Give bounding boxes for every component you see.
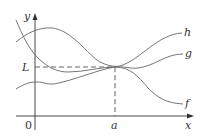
h-label: h bbox=[184, 26, 191, 39]
f-label: f bbox=[184, 97, 191, 110]
y-axis-arrow-icon bbox=[33, 13, 38, 20]
a-label: a bbox=[111, 119, 118, 132]
squeeze-diagram: y x 0 L a h g f bbox=[0, 0, 206, 138]
x-axis-label: x bbox=[185, 119, 192, 132]
g-label: g bbox=[185, 47, 192, 60]
origin-label: 0 bbox=[25, 119, 32, 132]
y-axis-label: y bbox=[23, 10, 31, 23]
x-axis-arrow-icon bbox=[187, 114, 194, 119]
curve-g bbox=[16, 54, 183, 89]
L-label: L bbox=[21, 61, 29, 74]
